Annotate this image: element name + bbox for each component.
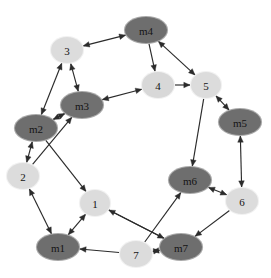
arrowhead-reverse [29,189,34,196]
edge-line [158,41,194,74]
edge-n1-m1 [68,214,85,234]
node-n6[interactable]: 6 [225,187,259,215]
arrowhead-reverse [70,64,75,71]
node-m2[interactable]: m2 [14,114,58,142]
node-m4[interactable]: m4 [124,16,168,44]
arrowhead [57,63,62,70]
edge-line [109,210,164,238]
node-label: 4 [155,80,161,92]
node-n4[interactable]: 4 [141,71,175,99]
arrowhead [184,82,190,88]
node-label: 2 [20,171,26,183]
arrowhead [74,85,79,92]
node-n3[interactable]: 3 [50,36,84,64]
arrowhead [191,160,197,167]
edge-n7-m1 [80,247,119,253]
edge-line [195,210,229,236]
node-label: 5 [203,80,209,92]
node-label: m7 [174,242,189,254]
arrowhead-reverse [28,142,33,149]
edge-m2-n2 [26,142,34,163]
edge-m2-n3 [41,63,62,114]
edge-m2-m3 [53,114,65,120]
nodes-layer: m4345m3m5m22m616m17m7 [6,16,262,268]
arrowhead [195,230,202,236]
edge-line [83,35,125,46]
arrowhead [157,233,164,238]
edge-n1-m7 [109,210,164,238]
arrowhead [175,193,181,200]
arrowhead [26,156,31,163]
arrowhead-reverse [83,42,90,47]
graph-canvas: m4345m3m5m22m616m17m7 [0,0,271,278]
edge-line [192,99,203,166]
edge-m5-n6 [238,136,245,187]
arrowhead [220,190,227,195]
node-label: m2 [29,123,43,135]
node-n7[interactable]: 7 [119,240,153,268]
arrowhead [80,247,86,253]
arrowhead-reverse [102,95,109,100]
edge-n4-n5 [175,82,190,88]
node-label: m5 [233,117,248,129]
edge-n5-m6 [191,99,204,166]
node-label: 7 [133,249,139,261]
edge-n6-m7 [195,210,229,236]
node-label: 1 [92,198,98,210]
edge-line [240,136,241,187]
edge-n3-m4 [83,34,125,47]
edge-line [46,140,86,191]
node-label: m1 [51,242,65,254]
edge-line [29,189,51,234]
edge-m4-n4 [149,44,156,71]
arrowhead [119,34,126,39]
node-m5[interactable]: m5 [218,108,262,136]
node-label: 3 [64,45,70,57]
node-label: 6 [239,196,245,208]
node-label: m3 [75,100,90,112]
edge-m2-n1 [46,140,86,191]
arrowhead [135,88,142,93]
node-n1[interactable]: 1 [79,189,111,217]
edge-m6-n6 [209,187,227,195]
node-m7[interactable]: m7 [159,233,203,261]
arrowhead-reverse [238,136,244,142]
node-label: m6 [183,175,198,187]
arrowhead [46,227,51,234]
edge-n5-m5 [216,96,229,110]
disjunctive-graph-figure: m4345m3m5m22m616m17m7 [0,0,271,278]
node-n5[interactable]: 5 [190,71,222,99]
node-m1[interactable]: m1 [36,233,80,261]
edges-layer [26,34,245,254]
edge-n2-m1 [29,189,51,234]
edge-m4-n5 [158,41,194,74]
arrowhead-reverse [41,108,46,115]
arrowhead [239,181,245,187]
node-m3[interactable]: m3 [60,91,104,119]
edge-n7-m7 [153,248,160,254]
node-n2[interactable]: 2 [6,162,40,190]
edge-n3-m3 [70,64,80,92]
arrowhead [151,65,156,72]
node-m6[interactable]: m6 [168,166,212,194]
edge-m3-n4 [102,88,142,101]
edge-line [41,63,61,114]
arrowhead-reverse [209,187,216,192]
node-label: m4 [139,25,154,37]
